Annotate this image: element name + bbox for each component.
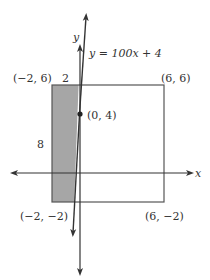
corner-label-bottom-left: (−2, −2) (20, 210, 68, 223)
x-axis-label: x (195, 167, 202, 180)
shaded-region (52, 85, 79, 202)
y-axis-label: y (72, 31, 80, 44)
coordinate-diagram: y x y = 100x + 4 (−2, 6) 2 (6, 6) (0, 4)… (0, 0, 210, 280)
corner-label-bottom-right: (6, −2) (145, 210, 184, 223)
corner-label-top-right: (6, 6) (161, 72, 191, 85)
height-label: 8 (37, 138, 44, 151)
width-label: 2 (62, 72, 69, 85)
point-0-4 (77, 111, 82, 116)
line-equation-label: y = 100x + 4 (88, 47, 162, 60)
corner-label-top-left: (−2, 6) (13, 72, 52, 85)
point-label: (0, 4) (87, 109, 117, 122)
